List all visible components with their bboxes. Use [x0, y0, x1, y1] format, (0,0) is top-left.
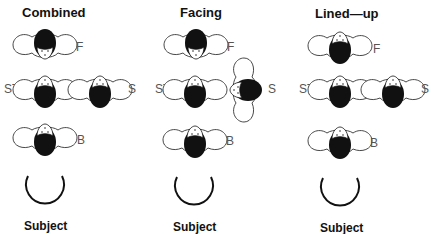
- label-b: B: [370, 136, 378, 150]
- person-side-icon: [393, 90, 394, 91]
- person-side-rotated-icon: [244, 90, 245, 91]
- label-b: B: [77, 133, 85, 147]
- person-stage-icon: [195, 90, 196, 91]
- subject-label: Subject: [173, 220, 216, 234]
- person-front-icon: [340, 46, 341, 47]
- label-f: F: [227, 40, 234, 54]
- label-s: S: [421, 82, 429, 96]
- panel-title-combined: Combined: [22, 5, 86, 20]
- person-back-icon: [45, 138, 46, 139]
- subject-arc-icon: [45, 190, 46, 191]
- person-front-icon: [45, 45, 46, 46]
- label-f: F: [76, 40, 83, 54]
- person-stage-icon: [45, 90, 46, 91]
- subject-arc-icon: [340, 192, 341, 193]
- label-s: S: [128, 82, 136, 96]
- subject-label: Subject: [320, 221, 363, 234]
- label-f: F: [373, 42, 380, 56]
- subject-label: Subject: [24, 219, 67, 233]
- person-back-icon: [340, 141, 341, 142]
- panel-title-facing: Facing: [180, 5, 222, 20]
- person-side-icon: [100, 90, 101, 91]
- person-stage-icon: [340, 90, 341, 91]
- label-b: B: [226, 134, 234, 148]
- person-back-icon: [195, 140, 196, 141]
- subject-arc-icon: [194, 191, 195, 192]
- panel-title-lined-up: Lined—up: [315, 6, 379, 21]
- label-s: S: [268, 82, 276, 96]
- person-front-icon: [196, 45, 197, 46]
